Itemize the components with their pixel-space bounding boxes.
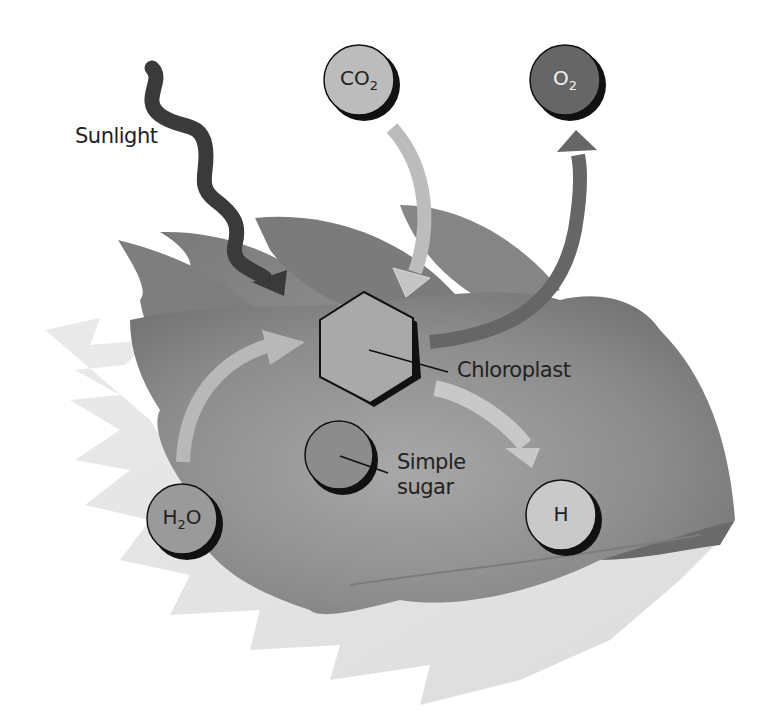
co2-label: CO2 [324,66,394,93]
simple-sugar-label-line1: Simple [397,450,466,474]
h2o-label-sub: 2 [178,517,186,532]
simple-sugar-label-line2: sugar [397,475,454,499]
chloroplast-label: Chloroplast [457,358,570,382]
o2-label-base: O [553,66,569,90]
co2-label-base: CO [340,66,370,90]
sugar-circle [305,421,373,489]
sunlight-label: Sunlight [75,124,158,148]
o2-label: O2 [530,66,600,93]
o2-label-sub: 2 [569,78,577,93]
h2o-label: H2O [147,505,217,532]
photosynthesis-diagram: Sunlight Chloroplast Simple sugar CO2 O2… [0,0,761,722]
co2-label-sub: 2 [370,78,378,93]
h-label-base: H [553,502,568,526]
diagram-canvas [0,0,761,722]
o2-arrowhead [557,130,597,152]
h2o-label-tail: O [186,505,202,529]
h2o-label-base: H [162,505,177,529]
h-label: H [526,502,596,526]
